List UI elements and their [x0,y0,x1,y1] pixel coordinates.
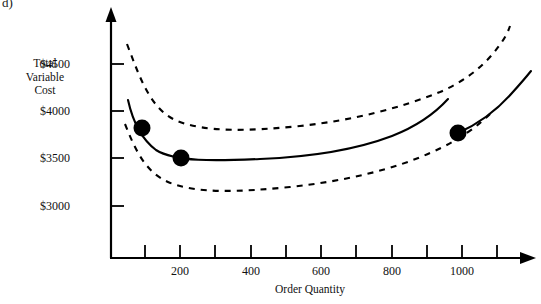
chart-plot-area [0,0,541,304]
y-axis-arrow-icon [106,7,117,22]
series-upper-bound-dashed [127,26,510,130]
series-total-variable-cost-solid-right [458,71,531,133]
x-tick-marks [145,245,497,258]
data-point-marker-3[interactable] [450,125,467,142]
data-point-marker-2[interactable] [173,150,190,167]
series-total-variable-cost-solid [128,99,448,160]
chart-figure: d) Total Variable Cost $4500 $4000 $3500… [0,0,541,304]
data-point-marker-1[interactable] [134,120,151,137]
y-tick-marks [111,64,124,206]
x-axis-arrow-icon [520,252,536,264]
